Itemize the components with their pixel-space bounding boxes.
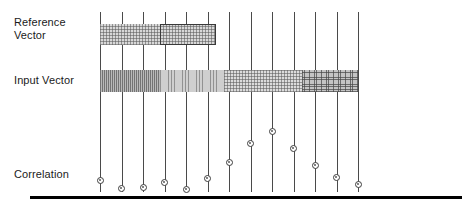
correlation-marker	[247, 140, 254, 147]
input-vector-segment	[224, 70, 302, 92]
correlation-marker	[140, 184, 147, 191]
input-vector-segment	[160, 70, 224, 92]
correlation-marker	[269, 128, 276, 135]
tick-line	[272, 12, 273, 192]
correlation-marker	[355, 181, 362, 188]
baseline-axis	[30, 196, 462, 199]
input-vector-segment	[100, 70, 160, 92]
tick-line	[251, 12, 252, 192]
correlation-label: Correlation	[14, 168, 69, 181]
correlation-marker	[226, 159, 233, 166]
correlation-marker	[183, 186, 190, 193]
input-vector-label: Input Vector	[14, 74, 74, 87]
correlation-marker	[290, 145, 297, 152]
correlation-marker	[312, 162, 319, 169]
correlation-marker	[97, 177, 104, 184]
tick-line	[294, 12, 295, 192]
reference-vector-label: Reference Vector	[14, 16, 66, 42]
tick-line	[337, 12, 338, 192]
correlation-marker	[204, 175, 211, 182]
correlation-marker	[118, 185, 125, 192]
correlation-marker	[333, 174, 340, 181]
correlation-diagram: Reference Vector Input Vector Correlatio…	[0, 0, 474, 215]
reference-vector-highlight-box	[160, 24, 216, 45]
tick-line	[358, 12, 359, 192]
correlation-marker	[161, 179, 168, 186]
input-vector-segment	[302, 70, 358, 92]
